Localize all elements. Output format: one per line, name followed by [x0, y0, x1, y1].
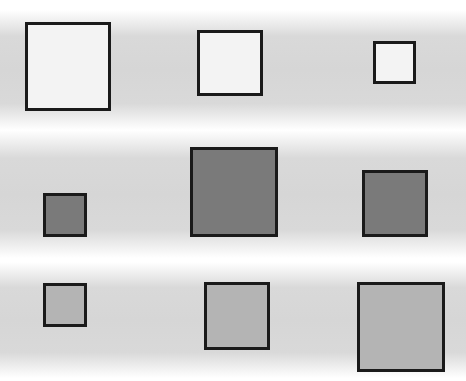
square-r3-c2	[204, 282, 270, 350]
square-r2-c2	[190, 147, 278, 237]
square-r1-c2	[197, 30, 263, 96]
square-r3-c3	[357, 282, 445, 372]
square-r2-c1	[43, 193, 87, 237]
square-r1-c3	[373, 41, 416, 84]
square-r1-c1	[25, 22, 111, 111]
square-r2-c3	[362, 170, 428, 237]
square-r3-c1	[43, 283, 87, 327]
